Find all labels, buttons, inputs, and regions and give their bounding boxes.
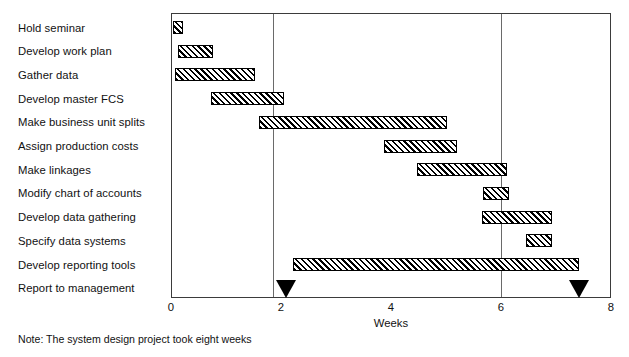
task-label: Assign production costs: [18, 139, 138, 153]
x-axis-title: Weeks: [171, 316, 611, 330]
gantt-chart: Hold seminarDevelop work planGather data…: [0, 0, 629, 357]
gantt-bar: [178, 45, 213, 58]
gantt-bar: [293, 258, 579, 271]
x-tick-label: 4: [378, 300, 404, 314]
chart-footnote: Note: The system design project took eig…: [18, 332, 252, 346]
task-label: Develop master FCS: [18, 92, 124, 106]
task-label: Develop data gathering: [18, 210, 136, 224]
clipped-title-remnant: [171, 0, 611, 3]
gantt-bar: [417, 163, 507, 176]
x-axis: 02468: [171, 298, 611, 318]
task-label: Hold seminar: [18, 21, 85, 35]
gantt-bar: [482, 211, 552, 224]
gridline-week-6: [501, 14, 502, 297]
task-label: Make business unit splits: [18, 115, 145, 129]
task-label: Modify chart of accounts: [18, 186, 142, 200]
gantt-bar: [259, 116, 447, 129]
task-label: Develop reporting tools: [18, 258, 135, 272]
task-label: Make linkages: [18, 163, 91, 177]
gantt-bar: [175, 68, 255, 81]
plot-area: [171, 13, 611, 298]
x-tick-label: 8: [598, 300, 624, 314]
gantt-bar: [526, 234, 552, 247]
gridline-week-2: [273, 14, 274, 297]
task-label-column: Hold seminarDevelop work planGather data…: [0, 13, 166, 285]
x-tick-label: 2: [268, 300, 294, 314]
gantt-bar: [211, 92, 284, 105]
task-label: Gather data: [18, 68, 78, 82]
task-label: Report to management: [18, 281, 135, 295]
milestone-triangle-icon: [276, 280, 296, 298]
x-tick-label: 6: [488, 300, 514, 314]
gantt-bar: [384, 140, 457, 153]
task-label: Specify data systems: [18, 234, 126, 248]
x-tick-label: 0: [158, 300, 184, 314]
milestone-triangle-icon: [569, 280, 589, 298]
task-label: Develop work plan: [18, 44, 112, 58]
gantt-bar: [173, 21, 183, 34]
gantt-bar: [483, 187, 509, 200]
